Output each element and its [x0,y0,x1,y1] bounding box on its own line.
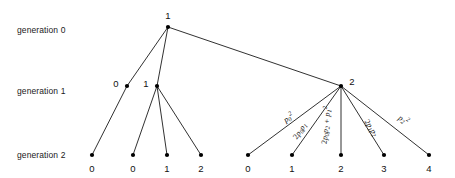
node-group [90,25,431,157]
tree-node-dot [155,84,159,88]
tree-edge [341,86,384,155]
node-label-g2n3: 2 [198,163,203,174]
tree-edge [157,86,201,155]
branching-process-figure: generation 0generation 1generation 2 101… [0,0,455,178]
node-label-g1n1: 1 [143,78,148,89]
node-label-g2n6: 2 [338,163,343,174]
tree-edge [133,86,157,155]
tree-node-dot [339,153,343,157]
tree-edge [168,27,341,86]
tree-edge [341,86,429,155]
tree-edge [292,86,341,155]
node-label-g2n0: 0 [89,163,94,174]
node-label-g2n5: 1 [289,163,294,174]
tree-node-dot [382,153,386,157]
tree-edges-svg [0,0,455,178]
tree-edge [157,27,168,86]
generation-label-0: generation 0 [17,25,65,35]
generation-label-2: generation 2 [17,150,65,160]
edge-group [92,27,429,155]
tree-edge [92,86,127,155]
tree-node-dot [90,153,94,157]
node-label-g2n2: 1 [164,163,169,174]
node-label-g2n8: 4 [426,163,431,174]
node-label-g2n4: 0 [245,163,250,174]
tree-node-dot [165,153,169,157]
node-label-g2n7: 3 [381,163,386,174]
tree-node-dot [131,153,135,157]
tree-node-dot [290,153,294,157]
tree-node-dot [166,25,170,29]
node-label-g0n0: 1 [165,10,170,21]
node-label-g1n2: 2 [349,76,354,87]
tree-node-dot [339,84,343,88]
tree-node-dot [246,153,250,157]
generation-label-1: generation 1 [17,86,65,96]
tree-node-dot [125,84,129,88]
node-label-g1n0: 0 [113,78,118,89]
node-label-g2n1: 0 [130,163,135,174]
tree-edge [157,86,167,155]
tree-node-dot [199,153,203,157]
tree-node-dot [427,153,431,157]
